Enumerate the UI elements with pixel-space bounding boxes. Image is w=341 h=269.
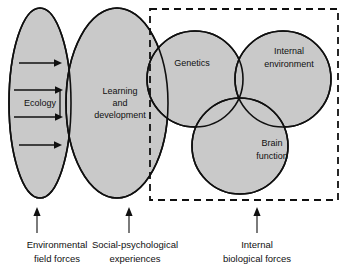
caption-social-line1: Social-psychological [92,239,178,250]
caption-internal-line2: biological forces [223,253,291,264]
internal-environment-label-line2: environment [264,59,314,69]
caption-arrow-environmental [33,207,40,233]
caption-arrow-internal [253,207,260,233]
learning-label-line1: Learning [102,86,137,96]
diagram-root: Ecology Learning and development Genetic… [0,0,341,269]
brain-function-label-line1: Brain [261,138,282,148]
learning-label-line3: development [94,110,146,120]
ecology-label: Ecology [24,98,57,108]
caption-internal-line1: Internal [241,239,273,250]
caption-arrows-group [33,207,260,233]
diagram-canvas: Ecology Learning and development Genetic… [0,0,341,269]
caption-social-line2: experiences [109,253,160,264]
internal-environment-label-line1: Internal [274,46,304,56]
caption-arrow-social [125,207,132,233]
learning-label-line2: and [112,98,127,108]
caption-environmental-line1: Environmental [27,239,88,250]
genetics-label: Genetics [174,58,210,68]
brain-function-label-line2: function [256,151,288,161]
caption-environmental-line2: field forces [34,253,80,264]
